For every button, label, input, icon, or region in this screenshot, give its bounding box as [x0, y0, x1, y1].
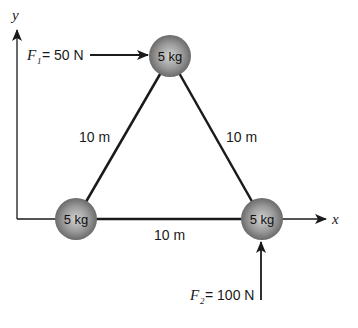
force-f1-label: F 1 = 50 N — [26, 47, 84, 66]
mass-bottom-right: 5 kg — [241, 198, 283, 240]
mass-bottom-left: 5 kg — [55, 198, 97, 240]
svg-text:F: F — [189, 287, 200, 303]
svg-text:= 50 N: = 50 N — [42, 47, 84, 63]
mass-top: 5 kg — [149, 35, 191, 77]
side-length-right: 10 m — [226, 129, 257, 145]
side-length-bottom: 10 m — [154, 227, 185, 243]
svg-text:5 kg: 5 kg — [158, 49, 183, 64]
svg-text:1: 1 — [37, 56, 42, 66]
svg-text:5 kg: 5 kg — [64, 212, 89, 227]
x-axis-label: x — [331, 211, 339, 227]
y-axis-label: y — [10, 7, 19, 23]
svg-text:F: F — [26, 47, 37, 63]
force-f2-label: F 2 = 100 N — [189, 287, 254, 306]
svg-text:= 100 N: = 100 N — [205, 287, 254, 303]
svg-text:5 kg: 5 kg — [250, 212, 275, 227]
side-length-left: 10 m — [79, 129, 110, 145]
diagram-canvas: y x 10 m 10 m 10 m F 1 = 50 N F 2 = 100 … — [0, 0, 358, 328]
